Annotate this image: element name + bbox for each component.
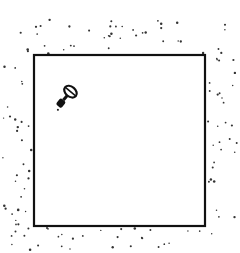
particle-dot: [162, 40, 164, 42]
particle-dot: [219, 141, 221, 143]
particle-dot: [217, 93, 219, 95]
particle-dot: [130, 245, 132, 247]
particle-dot: [29, 249, 32, 252]
particle-dot: [68, 25, 70, 27]
particle-dot: [20, 196, 22, 198]
particle-dot: [110, 20, 112, 22]
particle-dot: [20, 32, 22, 34]
particle-dot: [142, 32, 144, 34]
particle-dot: [216, 59, 218, 61]
particle-dot: [73, 45, 75, 47]
particle-dot: [23, 235, 25, 237]
particle-dot: [176, 21, 179, 24]
particle-dot: [180, 40, 182, 42]
particle-dot: [141, 237, 143, 239]
particle-dot: [218, 48, 220, 50]
particle-dot: [229, 138, 231, 140]
particle-dot: [14, 118, 16, 120]
particle-dot: [3, 65, 5, 67]
particle-dot: [234, 72, 236, 74]
particle-dot: [149, 229, 151, 231]
particle-dot: [27, 50, 29, 52]
particle-dot: [202, 52, 204, 54]
particle-dot: [70, 45, 72, 47]
particle-dot: [11, 244, 13, 246]
particle-dot: [15, 224, 17, 226]
particle-dot: [210, 178, 212, 180]
particle-dot: [28, 125, 30, 127]
particle-dot: [17, 209, 20, 212]
particle-dot: [117, 236, 119, 238]
particle-dot: [221, 97, 223, 99]
particle-dot: [37, 244, 39, 246]
particle-dot: [224, 29, 226, 31]
particle-dot: [25, 211, 26, 212]
particle-dot: [11, 213, 13, 215]
particle-dot: [14, 67, 16, 69]
particle-dot: [132, 29, 134, 31]
diagram-canvas: [0, 0, 240, 253]
particle-dot: [160, 22, 163, 25]
particle-dot: [4, 208, 6, 210]
particle-dot: [115, 26, 117, 28]
particle-dot: [30, 149, 33, 152]
particle-dot: [21, 121, 23, 123]
particle-dot: [135, 34, 137, 36]
particle-dot: [7, 106, 9, 108]
particle-dot: [163, 243, 165, 245]
particle-dot: [108, 47, 110, 49]
particle-dot: [220, 149, 222, 151]
particle-dot: [2, 157, 3, 158]
particle-dot: [104, 37, 106, 39]
particle-dot: [234, 151, 236, 153]
particle-dot: [109, 25, 111, 27]
particle-dot: [23, 163, 25, 165]
particle-dot: [3, 204, 6, 207]
particle-dot: [218, 216, 220, 218]
particle-dot: [48, 19, 50, 21]
particle-dot: [112, 246, 114, 248]
particle-dot: [100, 230, 101, 231]
particle-dot: [63, 49, 65, 51]
particle-dot: [9, 115, 11, 117]
particle-dot: [88, 30, 90, 32]
particle-dot: [236, 142, 238, 144]
particle-dot: [108, 35, 110, 37]
particle-dot: [120, 37, 122, 39]
particle-dot: [15, 220, 16, 221]
particle-dot: [225, 122, 227, 124]
particle-dot: [212, 144, 213, 145]
particle-dot: [61, 245, 63, 247]
particle-dot: [27, 177, 29, 179]
particle-dot: [157, 20, 159, 22]
particle-dot: [177, 40, 179, 42]
particle-dot: [120, 228, 122, 230]
particle-dot: [36, 33, 38, 35]
particle-dot: [69, 248, 70, 249]
particle-dot: [16, 130, 18, 132]
particle-dot: [207, 120, 209, 122]
particle-dot: [160, 27, 162, 29]
particle-dot: [72, 238, 74, 240]
particle-dot: [168, 243, 170, 245]
particle-dot: [216, 209, 218, 211]
particle-dot: [15, 230, 17, 232]
enclosure-square: [34, 55, 205, 226]
particle-dot: [21, 83, 23, 85]
particle-dot: [44, 45, 46, 47]
particle-dot: [17, 126, 19, 128]
particle-dot: [223, 102, 225, 104]
particle-dot: [209, 90, 211, 92]
particle-dot: [199, 230, 201, 232]
particle-dot: [208, 181, 210, 183]
particle-dot: [213, 162, 215, 164]
particle-dot: [24, 188, 26, 190]
particle-dot: [11, 235, 13, 237]
particle-dot: [121, 26, 123, 28]
particle-dot: [209, 82, 211, 84]
particle-dot: [218, 59, 220, 61]
particle-dot: [15, 181, 17, 183]
particle-dot: [82, 235, 84, 237]
particle-dot: [17, 223, 19, 225]
particle-dot: [232, 59, 234, 61]
